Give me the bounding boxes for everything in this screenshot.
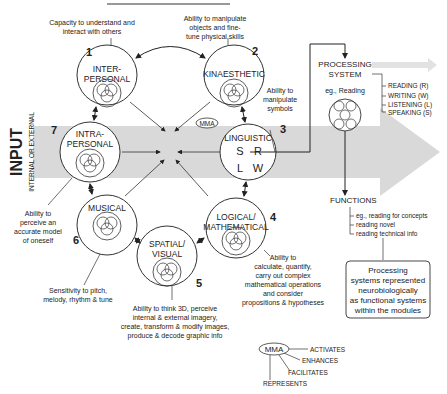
svg-text:SPEAKING (S): SPEAKING (S) xyxy=(388,109,432,117)
caption-linguistic: Ability to manipulate symbols xyxy=(263,87,297,113)
svg-text:melody, rhythm & tune: melody, rhythm & tune xyxy=(43,296,113,304)
svg-text:VISUAL: VISUAL xyxy=(152,249,183,259)
svg-text:MMA: MMA xyxy=(199,120,215,127)
svg-text:Sensitivity to pitch,: Sensitivity to pitch, xyxy=(49,287,107,295)
svg-text:accurate model: accurate model xyxy=(14,228,62,235)
functions-title: FUNCTIONS xyxy=(330,196,377,205)
caption-spatial: Ability to think 3D, perceive internal &… xyxy=(121,305,230,340)
svg-text:LOGICAL/: LOGICAL/ xyxy=(216,212,256,222)
svg-text:produce & decode graphic info: produce & decode graphic info xyxy=(128,332,223,340)
svg-text:Capacity to understand and: Capacity to understand and xyxy=(49,19,135,27)
caption-intrapersonal: Ability to perceive an accurate model of… xyxy=(14,210,62,244)
svg-text:mathematical operations: mathematical operations xyxy=(245,281,322,289)
svg-text:neurobiologically: neurobiologically xyxy=(358,286,418,295)
note-box: Processing systems represented neurobiol… xyxy=(346,261,430,318)
module-spatial-visual[interactable]: SPATIAL/ VISUAL 5 xyxy=(137,226,202,289)
svg-text:2: 2 xyxy=(252,45,258,57)
svg-text:WRITING (W): WRITING (W) xyxy=(388,92,428,100)
svg-text:perceive an: perceive an xyxy=(20,219,56,227)
svg-text:Ability to: Ability to xyxy=(270,254,297,262)
svg-text:tune physical skills: tune physical skills xyxy=(186,33,244,41)
module-interpersonal[interactable]: INTER- PERSONAL 1 xyxy=(77,45,137,107)
svg-text:4: 4 xyxy=(270,211,277,223)
caption-logical: Ability to calculate, quantify, carry ou… xyxy=(242,254,325,307)
svg-text:L: L xyxy=(237,162,243,174)
processing-items xyxy=(372,74,386,112)
svg-text:Processing: Processing xyxy=(368,266,408,275)
module-musical[interactable]: MUSICAL 6 xyxy=(73,195,137,255)
input-title: INPUT xyxy=(8,128,25,176)
svg-text:of oneself: of oneself xyxy=(23,237,53,244)
input-subtitle: INTERNAL OR EXTERNAL xyxy=(28,112,35,192)
svg-text:INTRA-: INTRA- xyxy=(76,129,105,139)
svg-text:W: W xyxy=(253,162,264,174)
mma-legend: MMA ACTIVATES ENHANCES FACILITATES REPRE… xyxy=(259,343,346,387)
module-kinaesthetic[interactable]: KINAESTHETIC 2 xyxy=(203,45,265,107)
svg-text:PROCESSING: PROCESSING xyxy=(318,60,371,69)
svg-text:internal & external imagery,: internal & external imagery, xyxy=(133,314,218,322)
svg-text:and consider: and consider xyxy=(263,290,304,297)
svg-text:1: 1 xyxy=(86,46,92,58)
svg-text:MUSICAL: MUSICAL xyxy=(88,203,126,213)
svg-text:within the modules: within the modules xyxy=(354,306,421,315)
module-logical-mathematical[interactable]: LOGICAL/ MATHEMATICAL 4 xyxy=(203,198,277,258)
svg-text:LISTENING (L): LISTENING (L) xyxy=(388,101,432,109)
svg-text:systems represented: systems represented xyxy=(351,276,425,285)
svg-text:objects and fine-: objects and fine- xyxy=(189,24,241,32)
svg-text:symbols: symbols xyxy=(267,105,293,113)
svg-text:3: 3 xyxy=(280,123,286,135)
svg-text:Ability to think 3D, perceive: Ability to think 3D, perceive xyxy=(133,305,218,313)
svg-text:R: R xyxy=(254,145,262,157)
svg-text:5: 5 xyxy=(196,277,202,289)
svg-text:SPATIAL/: SPATIAL/ xyxy=(149,239,186,249)
svg-text:MMA: MMA xyxy=(265,345,284,354)
svg-text:as functional systems: as functional systems xyxy=(350,296,426,305)
svg-text:INTER-: INTER- xyxy=(93,64,122,74)
svg-text:manipulate: manipulate xyxy=(263,96,297,104)
svg-text:interact with others: interact with others xyxy=(63,28,122,35)
svg-text:Ability to: Ability to xyxy=(25,210,52,218)
svg-text:Ability to manipulate: Ability to manipulate xyxy=(184,15,247,23)
svg-text:carry out complex: carry out complex xyxy=(255,272,311,280)
multiple-intelligences-diagram: INPUT INTERNAL OR EXTERNAL INTER- PERSON… xyxy=(0,0,447,394)
svg-text:6: 6 xyxy=(73,234,79,246)
svg-text:READING (R): READING (R) xyxy=(388,82,428,90)
svg-text:SYSTEM: SYSTEM xyxy=(329,70,362,79)
caption-musical: Sensitivity to pitch, melody, rhythm & t… xyxy=(43,287,113,304)
processing-system: PROCESSING SYSTEM eg., Reading xyxy=(318,60,371,131)
svg-text:PERSONAL: PERSONAL xyxy=(67,139,114,149)
svg-text:create, transform & modify ima: create, transform & modify images, xyxy=(121,323,230,331)
svg-text:eg., Reading: eg., Reading xyxy=(325,87,365,95)
svg-text:propositions & hypotheses: propositions & hypotheses xyxy=(242,299,325,307)
svg-text:S: S xyxy=(236,145,243,157)
processing-arrow xyxy=(372,58,437,72)
svg-text:reading novel: reading novel xyxy=(356,221,396,229)
svg-text:ENHANCES: ENHANCES xyxy=(302,357,339,364)
svg-text:eg., reading for concepts: eg., reading for concepts xyxy=(356,212,428,220)
svg-text:ACTIVATES: ACTIVATES xyxy=(310,346,346,353)
svg-text:7: 7 xyxy=(51,124,57,136)
svg-text:FACILITATES: FACILITATES xyxy=(288,369,329,376)
caption-kinaesthetic: Ability to manipulate objects and fine- … xyxy=(184,15,247,41)
svg-text:Ability to: Ability to xyxy=(267,87,294,95)
svg-text:calculate, quantify,: calculate, quantify, xyxy=(254,263,312,271)
svg-text:REPRESENTS: REPRESENTS xyxy=(263,380,308,387)
svg-text:reading technical info: reading technical info xyxy=(356,230,418,238)
processing-item-labels: READING (R) WRITING (W) LISTENING (L) SP… xyxy=(388,82,432,117)
functions-items: eg., reading for concepts reading novel … xyxy=(356,212,428,238)
mma-badge: MMA xyxy=(196,118,218,128)
caption-interpersonal: Capacity to understand and interact with… xyxy=(49,19,135,35)
svg-text:LINGUISTIC: LINGUISTIC xyxy=(224,133,272,143)
svg-text:KINAESTHETIC: KINAESTHETIC xyxy=(203,69,265,79)
